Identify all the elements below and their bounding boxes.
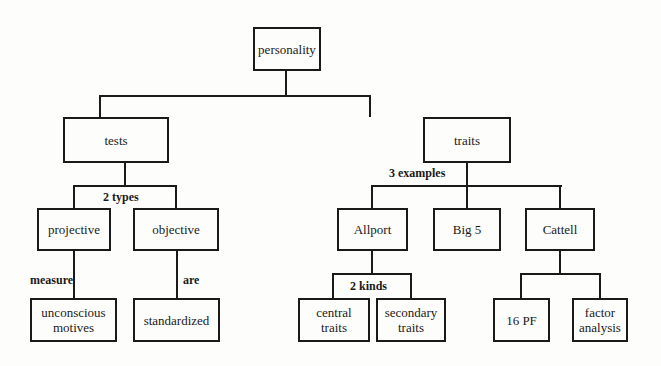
connector bbox=[466, 162, 468, 186]
node-factor-analysis: factor analysis bbox=[572, 298, 628, 342]
node-central-traits: central traits bbox=[298, 298, 370, 342]
connector bbox=[520, 273, 601, 275]
connector bbox=[99, 95, 371, 97]
connector bbox=[559, 250, 561, 274]
node-projective: projective bbox=[37, 208, 111, 251]
connector bbox=[124, 162, 126, 186]
connector bbox=[332, 273, 412, 275]
connector bbox=[466, 185, 468, 208]
connector bbox=[371, 185, 373, 208]
node-allport: Allport bbox=[337, 208, 408, 251]
connector bbox=[73, 250, 75, 298]
edge-label-3-examples: 3 examples bbox=[389, 166, 445, 181]
connector bbox=[559, 185, 561, 208]
node-cattell: Cattell bbox=[525, 208, 595, 251]
connector bbox=[369, 95, 371, 117]
connector bbox=[520, 273, 522, 298]
node-unconscious-motives: unconscious motives bbox=[30, 298, 117, 342]
edge-label-2-types: 2 types bbox=[103, 190, 139, 205]
connector bbox=[285, 70, 287, 96]
connector bbox=[371, 250, 373, 274]
node-personality: personality bbox=[253, 27, 321, 71]
node-secondary-traits: secondary traits bbox=[376, 298, 446, 342]
connector bbox=[332, 273, 334, 298]
node-standardized: standardized bbox=[133, 298, 220, 342]
connector bbox=[410, 273, 412, 298]
edge-label-are: are bbox=[183, 273, 199, 288]
node-big5: Big 5 bbox=[433, 208, 501, 251]
node-tests: tests bbox=[63, 117, 169, 163]
edge-label-measure: measure bbox=[30, 273, 73, 288]
node-traits: traits bbox=[423, 117, 511, 163]
connector bbox=[73, 185, 75, 208]
node-objective: objective bbox=[133, 208, 219, 251]
node-16pf: 16 PF bbox=[493, 298, 550, 342]
connector bbox=[599, 273, 601, 298]
edge-label-2-kinds: 2 kinds bbox=[350, 279, 387, 294]
connector bbox=[175, 185, 177, 208]
connector bbox=[99, 95, 101, 117]
connector bbox=[73, 185, 177, 187]
connector bbox=[176, 250, 178, 298]
